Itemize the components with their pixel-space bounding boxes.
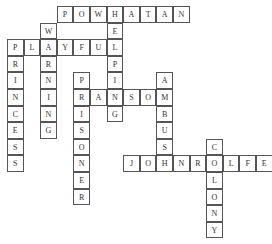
- crossword-cell[interactable]: A: [123, 6, 140, 23]
- crossword-cell[interactable]: S: [123, 89, 140, 106]
- crossword-cell[interactable]: L: [223, 155, 240, 172]
- crossword-cell[interactable]: H: [107, 6, 124, 23]
- crossword-cell[interactable]: S: [73, 122, 90, 139]
- crossword-cell[interactable]: B: [156, 106, 173, 123]
- crossword-cell[interactable]: A: [156, 6, 173, 23]
- crossword-cell[interactable]: N: [40, 106, 57, 123]
- crossword-cell[interactable]: N: [40, 72, 57, 89]
- crossword-cell[interactable]: O: [73, 6, 90, 23]
- crossword-cell[interactable]: L: [24, 39, 41, 56]
- crossword-cell[interactable]: E: [73, 172, 90, 189]
- crossword-cell[interactable]: W: [90, 6, 107, 23]
- crossword-cell[interactable]: N: [73, 155, 90, 172]
- crossword-cell[interactable]: I: [40, 89, 57, 106]
- crossword-cell[interactable]: S: [7, 155, 24, 172]
- crossword-cell[interactable]: R: [73, 189, 90, 206]
- crossword-cell[interactable]: E: [256, 155, 272, 172]
- crossword-cell[interactable]: I: [107, 72, 124, 89]
- crossword-cell[interactable]: N: [107, 89, 124, 106]
- crossword-cell[interactable]: H: [156, 155, 173, 172]
- crossword-cell[interactable]: S: [7, 139, 24, 156]
- crossword-cell[interactable]: A: [90, 89, 107, 106]
- crossword-cell[interactable]: U: [90, 39, 107, 56]
- crossword-cell[interactable]: I: [7, 72, 24, 89]
- crossword-cell[interactable]: A: [156, 72, 173, 89]
- crossword-cell[interactable]: P: [7, 39, 24, 56]
- crossword-cell[interactable]: E: [7, 122, 24, 139]
- crossword-cell[interactable]: N: [7, 89, 24, 106]
- crossword-cell[interactable]: O: [140, 155, 157, 172]
- crossword-cell[interactable]: F: [73, 39, 90, 56]
- crossword-cell[interactable]: M: [156, 89, 173, 106]
- crossword-cell[interactable]: C: [206, 139, 223, 156]
- crossword-cell[interactable]: O: [206, 189, 223, 206]
- crossword-cell[interactable]: I: [73, 106, 90, 123]
- crossword-cell[interactable]: R: [7, 56, 24, 73]
- crossword-cell[interactable]: R: [73, 89, 90, 106]
- crossword-cell[interactable]: O: [140, 89, 157, 106]
- crossword-cell[interactable]: A: [40, 39, 57, 56]
- crossword-cell[interactable]: R: [190, 155, 207, 172]
- crossword-cell[interactable]: R: [40, 56, 57, 73]
- crossword-cell[interactable]: C: [7, 106, 24, 123]
- crossword-cell[interactable]: J: [123, 155, 140, 172]
- crossword-cell[interactable]: T: [140, 6, 157, 23]
- crossword-cell[interactable]: Y: [206, 222, 223, 239]
- crossword-cell[interactable]: P: [57, 6, 74, 23]
- crossword-cell[interactable]: N: [206, 205, 223, 222]
- crossword-cell[interactable]: N: [173, 155, 190, 172]
- crossword-cell[interactable]: O: [206, 155, 223, 172]
- crossword-cell[interactable]: L: [107, 39, 124, 56]
- crossword-cell[interactable]: G: [107, 106, 124, 123]
- crossword-cell[interactable]: E: [107, 23, 124, 40]
- crossword-cell[interactable]: P: [73, 72, 90, 89]
- crossword-cell[interactable]: N: [173, 6, 190, 23]
- crossword-cell[interactable]: S: [156, 139, 173, 156]
- crossword-cell[interactable]: P: [107, 56, 124, 73]
- crossword-cell[interactable]: G: [40, 122, 57, 139]
- crossword-cell[interactable]: L: [206, 172, 223, 189]
- crossword-cell[interactable]: U: [156, 122, 173, 139]
- crossword-cell[interactable]: F: [239, 155, 256, 172]
- crossword-cell[interactable]: O: [73, 139, 90, 156]
- crossword-cell[interactable]: Y: [57, 39, 74, 56]
- crossword-cell[interactable]: W: [40, 23, 57, 40]
